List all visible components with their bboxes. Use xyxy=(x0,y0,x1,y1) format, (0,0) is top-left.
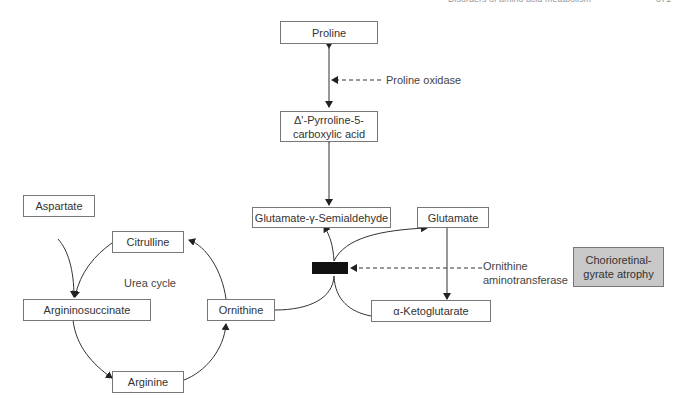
pathway-connectors xyxy=(0,0,684,410)
node-label: Arginine xyxy=(128,375,168,389)
node-glutamate: Glutamate xyxy=(417,207,489,228)
node-label: Chorioretinal- xyxy=(585,253,651,267)
enzyme-block-marker xyxy=(312,262,348,274)
node-pyrroline-5-carboxylic-acid: Δ'-Pyrroline-5- carboxylic acid xyxy=(280,111,378,142)
node-label: Glutamate-γ-Semialdehyde xyxy=(255,211,388,225)
node-glutamate-semialdehyde: Glutamate-γ-Semialdehyde xyxy=(252,207,391,228)
node-label: carboxylic acid xyxy=(293,127,365,141)
node-proline: Proline xyxy=(280,21,378,44)
node-aspartate: Aspartate xyxy=(23,195,95,217)
node-ornithine: Ornithine xyxy=(207,299,275,321)
node-label: Ornithine xyxy=(219,303,264,317)
node-label: Aspartate xyxy=(35,199,82,213)
node-alpha-ketoglutarate: α-Ketoglutarate xyxy=(371,300,491,322)
node-label: gyrate atrophy xyxy=(583,267,653,281)
node-chorioretinal-gyrate-atrophy: Chorioretinal- gyrate atrophy xyxy=(573,247,664,287)
node-arginine: Arginine xyxy=(112,371,184,393)
node-label: Citrulline xyxy=(127,235,170,249)
node-label: Proline xyxy=(312,26,346,40)
node-label: α-Ketoglutarate xyxy=(393,304,468,318)
label-line: Ornithine xyxy=(483,259,568,273)
label-urea-cycle: Urea cycle xyxy=(124,276,176,290)
label-line: aminotransferase xyxy=(483,273,568,287)
node-argininosuccinate: Argininosuccinate xyxy=(23,299,151,321)
node-citrulline: Citrulline xyxy=(112,231,184,253)
node-label: Glutamate xyxy=(428,211,479,225)
node-label: Argininosuccinate xyxy=(44,303,131,317)
label-proline-oxidase: Proline oxidase xyxy=(386,73,461,87)
label-ornithine-aminotransferase: Ornithine aminotransferase xyxy=(483,259,568,287)
node-label: Δ'-Pyrroline-5- xyxy=(294,113,364,127)
